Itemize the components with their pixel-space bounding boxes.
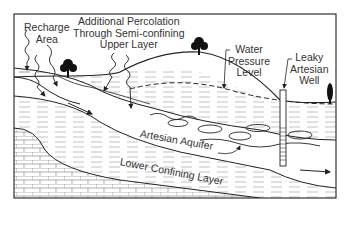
label-water-pressure-level: Water Pressure Level [228, 44, 270, 79]
label-additional-percolation: Additional Percolation Through Semi-conf… [73, 16, 184, 51]
label-leaky-artesian-well: Leaky Artesian Well [290, 52, 329, 87]
artesian-aquifer-diagram: Recharge Area Additional Percolation Thr… [0, 0, 364, 226]
label-recharge-area: Recharge Area [24, 22, 70, 45]
leaky-artesian-well [280, 90, 286, 166]
